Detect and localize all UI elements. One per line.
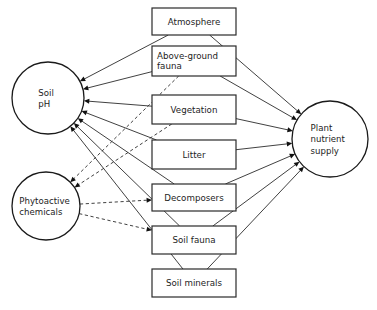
node-box-decomposers[interactable]: Decomposers — [152, 184, 236, 211]
edge-vegetation-to-plant-nutrient-supply — [236, 119, 288, 130]
node-circle-plant-nutrient-supply[interactable]: Plantnutrientsupply — [292, 101, 368, 177]
box-label: Above-ground — [157, 51, 218, 61]
arrowhead-icon — [70, 126, 75, 132]
arrowhead-icon — [84, 99, 90, 104]
circle-label: Soil — [38, 88, 54, 98]
edge-above-ground-fauna-to-soil-ph — [88, 72, 153, 88]
edge-litter-to-plant-nutrient-supply — [236, 144, 288, 150]
box-label: fauna — [157, 61, 182, 71]
circle-label: supply — [311, 146, 339, 156]
edge-phytoactive-chemicals-to-soil-fauna — [79, 214, 147, 230]
node-box-litter[interactable]: Litter — [152, 140, 236, 169]
arrowhead-icon — [78, 118, 84, 123]
circle-label: nutrient — [311, 134, 346, 144]
circle-label: chemicals — [19, 207, 63, 217]
node-circle-phytoactive-chemicals[interactable]: Phytoactivechemicals — [12, 172, 80, 240]
arrowhead-icon — [287, 141, 293, 146]
box-label: Soil fauna — [172, 235, 215, 245]
node-box-atmosphere[interactable]: Atmosphere — [152, 8, 236, 35]
box-label: Litter — [183, 150, 206, 160]
circle-label: Plant — [311, 123, 333, 133]
circle-label: Phytoactive — [19, 196, 69, 206]
node-box-vegetation[interactable]: Vegetation — [152, 95, 236, 124]
edge-vegetation-to-soil-ph — [89, 101, 152, 106]
arrowhead-icon — [294, 162, 300, 167]
box-label: Vegetation — [171, 105, 218, 115]
arrowhead-icon — [83, 85, 89, 90]
box-label: Atmosphere — [168, 17, 221, 27]
node-box-soil-minerals[interactable]: Soil minerals — [152, 269, 236, 297]
box-label: Decomposers — [164, 193, 224, 203]
arrowhead-icon — [74, 182, 80, 187]
box-layer: AtmosphereAbove-groundfaunaVegetationLit… — [152, 8, 236, 297]
edge-phytoactive-chemicals-to-decomposers — [80, 200, 147, 204]
circle-label: pH — [38, 99, 50, 109]
node-box-soil-fauna[interactable]: Soil fauna — [152, 226, 236, 254]
node-box-above-ground-fauna[interactable]: Above-groundfauna — [152, 46, 236, 76]
diagram-canvas: AtmosphereAbove-groundfaunaVegetationLit… — [0, 0, 377, 310]
arrowhead-icon — [287, 127, 293, 132]
edge-litter-to-soil-ph — [86, 113, 157, 140]
box-label: Soil minerals — [166, 278, 222, 288]
node-circle-soil-ph[interactable]: SoilpH — [12, 62, 84, 134]
